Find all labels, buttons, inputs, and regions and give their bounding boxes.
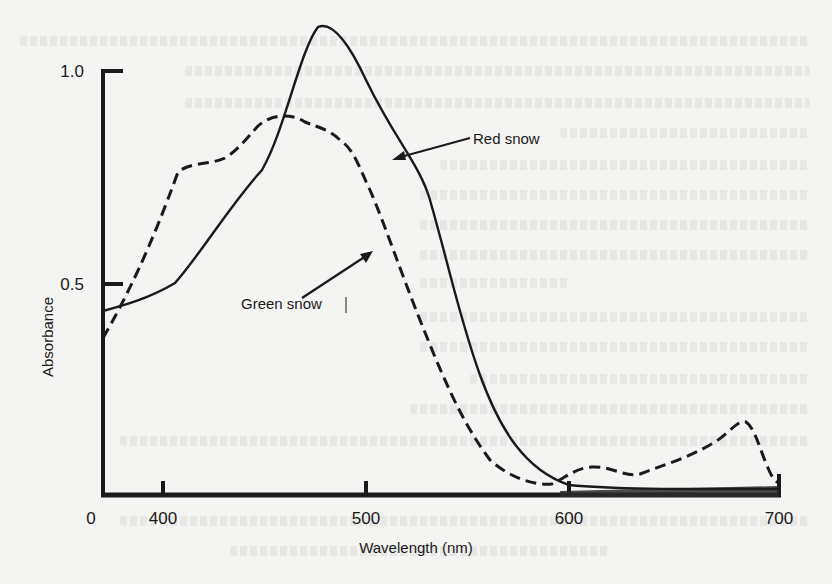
- green-snow-annotation: Green snow: [241, 251, 373, 313]
- red-snow-curve: [103, 26, 779, 489]
- arrowhead-icon: [360, 251, 373, 263]
- green-snow-label: Green snow: [241, 295, 322, 312]
- y-axis-title: Absorbance: [39, 297, 56, 377]
- absorbance-spectrum-chart: 1.0 0.5 0 400 500 600 700 Wavelength (nm…: [0, 0, 832, 584]
- x-tick-label-400: 400: [149, 509, 177, 528]
- red-snow-annotation: Red snow: [392, 130, 540, 160]
- red-snow-label: Red snow: [473, 130, 540, 147]
- green-snow-curve: [103, 116, 779, 484]
- y-tick-label-1.0: 1.0: [60, 62, 84, 81]
- x-tick-label-700: 700: [765, 509, 793, 528]
- x-tick-label-500: 500: [352, 509, 380, 528]
- x-axis: [101, 474, 781, 497]
- y-tick-label-0.5: 0.5: [60, 275, 84, 294]
- y-axis: [103, 69, 123, 497]
- x-tick-label-600: 600: [555, 509, 583, 528]
- x-axis-title: Wavelength (nm): [359, 539, 473, 556]
- x-tick-label-0: 0: [86, 509, 95, 528]
- arrowhead-icon: [392, 151, 406, 160]
